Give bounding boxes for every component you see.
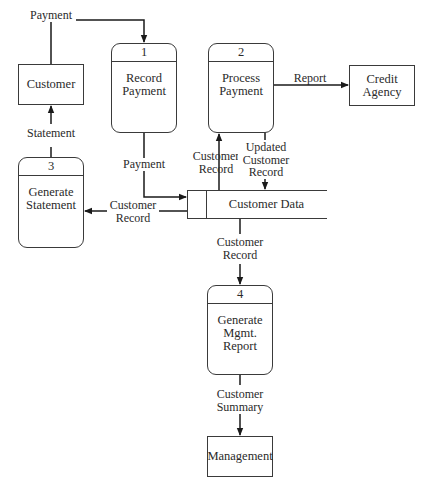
flow-label-payment-store: Payment xyxy=(119,158,169,171)
data-store-customer-data: Customer Data xyxy=(187,190,327,219)
process-number: 4 xyxy=(208,286,272,304)
process-process-payment: 2 Process Payment xyxy=(208,43,274,133)
flow-label-report: Report xyxy=(288,72,332,85)
flow-label-updated-customer-record: Updated Customer Record xyxy=(238,141,294,179)
process-generate-statement: 3 Generate Statement xyxy=(18,157,84,248)
process-number: 3 xyxy=(19,158,83,176)
process-label: Process Payment xyxy=(209,62,273,98)
process-label: Generate Mgmt. Report xyxy=(208,304,272,353)
entity-management: Management xyxy=(207,436,273,477)
entity-credit-agency: Credit Agency xyxy=(349,65,415,106)
flow-label-customer-record-to-statement: Customer Record xyxy=(107,199,159,224)
process-record-payment: 1 Record Payment xyxy=(111,43,177,133)
data-store-id-cell xyxy=(188,191,207,218)
flow-label-customer-record-to-mgmt: Customer Record xyxy=(212,236,268,261)
flow-label-statement: Statement xyxy=(20,127,82,140)
process-label: Generate Statement xyxy=(19,176,83,212)
process-generate-mgmt-report: 4 Generate Mgmt. Report xyxy=(207,285,273,375)
flow-label-customer-summary: Customer Summary xyxy=(212,388,268,413)
process-number: 1 xyxy=(112,44,176,62)
flow-label-payment-in: Payment xyxy=(26,9,76,22)
entity-credit-agency-label: Credit Agency xyxy=(363,73,402,99)
process-label: Record Payment xyxy=(112,62,176,98)
process-number: 2 xyxy=(209,44,273,62)
entity-customer: Customer xyxy=(18,64,84,105)
entity-management-label: Management xyxy=(207,450,272,463)
data-store-label: Customer Data xyxy=(206,191,327,218)
entity-customer-label: Customer xyxy=(27,78,76,91)
flow-label-customer-record-to-process: Customer Record xyxy=(186,150,246,175)
